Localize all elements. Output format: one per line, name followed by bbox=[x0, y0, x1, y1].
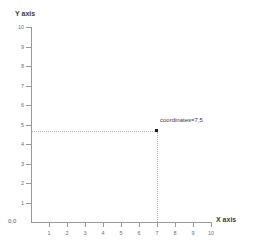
vertical-guide-line bbox=[157, 132, 159, 222]
x-tick-label-1: 1 bbox=[42, 230, 56, 236]
x-axis-title: X axis bbox=[216, 216, 236, 224]
x-tick-label-8: 8 bbox=[168, 230, 182, 236]
y-tick-label-6: 6 bbox=[2, 102, 24, 108]
point-coordinates-annotation: coordinates=7,5 bbox=[160, 117, 203, 124]
x-tick-label-2: 2 bbox=[60, 230, 74, 236]
y-tick-label-10: 10 bbox=[2, 24, 24, 30]
horizontal-guide-line bbox=[32, 131, 157, 133]
y-tick-label-4: 4 bbox=[2, 141, 24, 147]
y-tick-label-3: 3 bbox=[2, 161, 24, 167]
y-tick-label-8: 8 bbox=[2, 63, 24, 69]
y-tick-4 bbox=[26, 144, 31, 145]
y-axis-title: Y axis bbox=[15, 10, 35, 18]
coordinate-plane-chart: Y axis X axis 10 9 8 7 6 5 4 3 2 1 bbox=[0, 0, 264, 246]
y-tick-10 bbox=[26, 27, 31, 28]
x-tick-6 bbox=[139, 222, 140, 227]
x-tick-label-6: 6 bbox=[132, 230, 146, 236]
x-tick-label-4: 4 bbox=[96, 230, 110, 236]
y-tick-5 bbox=[26, 125, 31, 126]
y-tick-2 bbox=[26, 183, 31, 184]
data-point-marker bbox=[155, 129, 158, 132]
x-tick-label-7: 7 bbox=[150, 230, 164, 236]
x-tick-1 bbox=[49, 222, 50, 227]
x-tick-5 bbox=[121, 222, 122, 227]
y-tick-label-5: 5 bbox=[2, 122, 24, 128]
x-tick-3 bbox=[85, 222, 86, 227]
y-axis-line bbox=[31, 27, 32, 223]
y-tick-label-2: 2 bbox=[2, 180, 24, 186]
x-tick-10 bbox=[211, 222, 212, 227]
y-tick-6 bbox=[26, 105, 31, 106]
x-tick-8 bbox=[175, 222, 176, 227]
y-tick-label-1: 1 bbox=[2, 200, 24, 206]
y-tick-9 bbox=[26, 47, 31, 48]
x-tick-label-10: 10 bbox=[204, 230, 218, 236]
y-tick-label-9: 9 bbox=[2, 44, 24, 50]
x-tick-label-5: 5 bbox=[114, 230, 128, 236]
x-tick-label-9: 9 bbox=[186, 230, 200, 236]
x-tick-label-3: 3 bbox=[78, 230, 92, 236]
y-tick-label-7: 7 bbox=[2, 83, 24, 89]
y-tick-3 bbox=[26, 164, 31, 165]
origin-label: 0,0 bbox=[8, 218, 16, 225]
x-tick-2 bbox=[67, 222, 68, 227]
x-tick-4 bbox=[103, 222, 104, 227]
x-tick-9 bbox=[193, 222, 194, 227]
y-tick-8 bbox=[26, 66, 31, 67]
y-tick-1 bbox=[26, 203, 31, 204]
y-tick-7 bbox=[26, 86, 31, 87]
x-tick-7 bbox=[157, 222, 158, 227]
